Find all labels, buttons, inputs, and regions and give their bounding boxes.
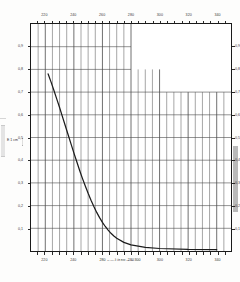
x-tickmark-bottom-240 [73,252,74,255]
x-tick-top-320: 320 [186,13,192,17]
y-tickmark-right-0 [232,229,235,230]
y-tick-right-8: 0,9 [235,44,240,48]
y-tickmark-left-0 [28,229,31,230]
x-tickmark-bottom-310 [174,252,175,255]
x-tickmark-bottom-215 [37,252,38,255]
x-tickmark-top-285 [138,21,139,24]
x-tickmark-bottom-255 [95,252,96,255]
x-tickmark-top-335 [210,21,211,24]
y-tickmark-left-7 [28,69,31,70]
x-tickmark-bottom-265 [109,252,110,255]
x-tickmark-bottom-345 [225,252,226,255]
x-tickmark-top-315 [182,21,183,24]
y-tickmark-left-5 [28,115,31,116]
x-tickmark-top-280 [131,21,132,24]
y-tickmark-left-6 [28,92,31,93]
x-tickmark-top-265 [109,21,110,24]
y-axis-label: E 1 cm [7,138,18,142]
x-tickmark-top-290 [145,21,146,24]
x-tickmark-bottom-230 [59,252,60,255]
x-tickmark-bottom-250 [88,252,89,255]
y-tick-left-6: 0,7 [18,90,23,94]
y-tickmark-right-5 [232,115,235,116]
x-tickmark-bottom-325 [196,252,197,255]
x-caption-right: 300 [134,258,140,262]
x-tick-top-340: 340 [214,13,220,17]
x-tickmark-top-215 [37,21,38,24]
y-tick-right-3: 0,4 [235,158,240,162]
x-caption-arrow-right: —→ [126,258,133,262]
plot-area [30,23,232,252]
y-tick-right-7: 0,8 [235,67,240,71]
x-tickmark-top-230 [59,21,60,24]
y-axis-label-text: E 1 cm [7,138,18,142]
x-tickmark-bottom-270 [117,252,118,255]
x-tickmark-top-235 [66,21,67,24]
x-tickmark-top-225 [52,21,53,24]
x-tickmark-top-300 [160,21,161,24]
y-tick-right-1: 0,2 [235,204,240,208]
x-tickmark-bottom-320 [189,252,190,255]
y-tickmark-left-2 [28,183,31,184]
data-curve [48,74,217,250]
y-tickmark-left-1 [28,206,31,207]
x-caption-arrow-left: ←— [107,258,114,262]
x-tickmark-top-255 [95,21,96,24]
x-tick-top-280: 280 [128,13,134,17]
x-tickmark-bottom-280 [131,252,132,255]
x-tickmark-top-340 [218,21,219,24]
scan-artifact-top-left [0,118,6,119]
y-tick-left-5: 0,6 [18,113,23,117]
y-tickmark-right-2 [232,183,235,184]
y-tickmark-right-1 [232,206,235,207]
y-tickmark-left-3 [28,160,31,161]
scan-artifact-left-bar [1,125,5,157]
x-tickmark-top-220 [44,21,45,24]
x-tick-top-300: 300 [157,13,163,17]
x-tickmark-top-250 [88,21,89,24]
x-tickmark-top-270 [117,21,118,24]
y-tick-left-1: 0,2 [18,204,23,208]
y-tickmark-right-4 [232,138,235,139]
x-tickmark-top-320 [189,21,190,24]
y-tick-left-7: 0,8 [18,67,23,71]
x-tickmark-bottom-235 [66,252,67,255]
y-tick-left-8: 0,9 [18,44,23,48]
y-tick-right-5: 0,6 [235,113,240,117]
x-tickmark-top-325 [196,21,197,24]
x-tickmark-bottom-340 [218,252,219,255]
scan-artifact-right-bar [233,146,238,212]
x-tickmark-top-330 [203,21,204,24]
x-tickmark-bottom-295 [153,252,154,255]
x-tickmark-bottom-315 [182,252,183,255]
x-tickmark-top-305 [167,21,168,24]
x-tickmark-bottom-260 [102,252,103,255]
y-tickmark-right-6 [232,92,235,93]
x-caption-left: 280 [100,258,106,262]
x-tickmark-top-295 [153,21,154,24]
chart-page: 2202202402402602802803003003203203403400… [0,0,240,282]
x-tickmark-top-345 [225,21,226,24]
y-tickmark-right-8 [232,46,235,47]
y-tick-left-2: 0,3 [18,181,23,185]
x-tickmark-bottom-245 [81,252,82,255]
x-tick-top-220: 220 [41,13,47,17]
x-tickmark-bottom-285 [138,252,139,255]
y-tick-right-4: 0,5 [235,136,240,140]
y-tick-left-0: 0,1 [18,227,23,231]
y-tickmark-right-3 [232,160,235,161]
y-tick-right-0: 0,1 [235,227,240,231]
y-tickmark-right-7 [232,69,235,70]
x-tickmark-top-275 [124,21,125,24]
x-caption-symbol: λ in nm [115,258,126,262]
y-tick-right-2: 0,3 [235,181,240,185]
x-tickmark-bottom-335 [210,252,211,255]
x-tickmark-bottom-220 [44,252,45,255]
x-tickmark-bottom-305 [167,252,168,255]
grid-layer [31,24,231,251]
x-tickmark-bottom-225 [52,252,53,255]
x-tick-top-260: 260 [99,13,105,17]
x-tickmark-bottom-275 [124,252,125,255]
x-tickmark-top-310 [174,21,175,24]
x-tickmark-bottom-290 [145,252,146,255]
